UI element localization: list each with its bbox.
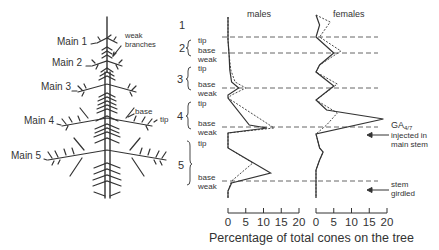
section-3-brace bbox=[186, 67, 191, 90]
x-tick-label: 0 bbox=[225, 216, 231, 228]
section-2-brace bbox=[186, 40, 191, 56]
figure-canvas: Main 1 Main 2 Main 3 Main 4 Main 5 weak … bbox=[0, 0, 439, 250]
section-3-weak: weak bbox=[197, 89, 218, 98]
section-3-number: 3 bbox=[177, 73, 183, 85]
females-solid-line bbox=[316, 15, 383, 198]
x-tick-label: 5 bbox=[243, 216, 249, 228]
x-tick-label: 15 bbox=[363, 216, 376, 228]
section-5-number: 5 bbox=[178, 159, 184, 171]
section-3-base: base bbox=[198, 80, 216, 89]
tree-label-main-5: Main 5 bbox=[11, 150, 41, 161]
section-4-brace bbox=[186, 102, 191, 129]
girdled-arrow-icon bbox=[367, 188, 389, 193]
males-solid-line bbox=[228, 17, 271, 198]
females-dashed-line bbox=[316, 15, 341, 198]
ga-annotation-line1: injected in bbox=[391, 131, 427, 140]
section-4-weak: weak bbox=[197, 128, 218, 137]
girdled-annotation-line1: stem bbox=[391, 180, 409, 189]
ga-arrow-icon bbox=[367, 133, 389, 138]
ga-annotation-main: GA bbox=[391, 120, 404, 130]
x-tick-label: 20 bbox=[381, 216, 394, 228]
weak-branches-label-line1: weak bbox=[124, 31, 143, 40]
tip-label: tip bbox=[160, 115, 169, 124]
x-tick-label: 10 bbox=[257, 216, 270, 228]
section-3-tip: tip bbox=[198, 64, 207, 73]
females-panel-title: females bbox=[333, 9, 365, 19]
weak-branches-label-line2: branches bbox=[125, 40, 156, 49]
section-5-base: base bbox=[198, 173, 216, 182]
girdled-annotation-line2: girdled bbox=[391, 189, 415, 198]
tree-labels: Main 1 Main 2 Main 3 Main 4 Main 5 weak … bbox=[11, 31, 169, 161]
x-axes: 0510152005101520 bbox=[225, 208, 394, 228]
section-labels: 1 2 tip base weak 3 tip base weak 4 tip … bbox=[177, 19, 218, 191]
x-tick-label: 0 bbox=[313, 216, 319, 228]
tree-label-main-3: Main 3 bbox=[41, 81, 71, 92]
males-panel-title: males bbox=[247, 9, 272, 19]
ga-annotation-line2: main stem bbox=[391, 140, 428, 149]
section-4-base: base bbox=[198, 119, 216, 128]
section-4-tip: tip bbox=[198, 99, 207, 108]
section-2-number: 2 bbox=[179, 42, 185, 54]
section-1-number: 1 bbox=[179, 19, 185, 31]
tree-label-main-1: Main 1 bbox=[57, 36, 87, 47]
x-tick-label: 10 bbox=[345, 216, 358, 228]
x-tick-label: 20 bbox=[293, 216, 306, 228]
x-tick-label: 5 bbox=[331, 216, 337, 228]
section-5-tip: tip bbox=[198, 139, 207, 148]
section-5-weak: weak bbox=[197, 182, 218, 191]
section-5-brace bbox=[187, 141, 192, 185]
data-series bbox=[228, 15, 383, 198]
tree-label-main-4: Main 4 bbox=[24, 115, 54, 126]
section-2-weak: weak bbox=[197, 55, 218, 64]
x-axis-title: Percentage of total cones on the tree bbox=[209, 231, 414, 245]
chart-area: males females 0510152005101520 Percentag… bbox=[209, 9, 428, 245]
section-2-base: base bbox=[198, 46, 216, 55]
base-label: base bbox=[135, 107, 153, 116]
x-tick-label: 15 bbox=[275, 216, 288, 228]
tree-label-main-2: Main 2 bbox=[52, 57, 82, 68]
section-4-number: 4 bbox=[177, 110, 183, 122]
section-2-tip: tip bbox=[198, 36, 207, 45]
